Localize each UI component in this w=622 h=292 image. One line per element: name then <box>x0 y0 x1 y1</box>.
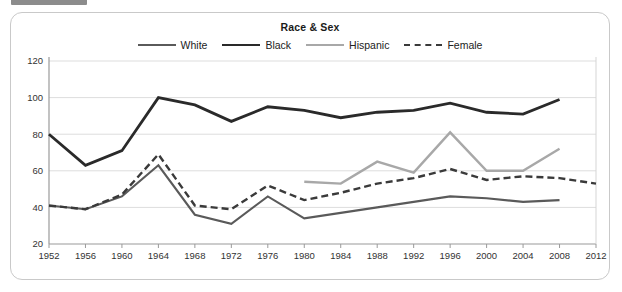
y-axis-tick-label: 100 <box>27 92 43 103</box>
x-axis-tick-label: 1972 <box>221 250 242 261</box>
y-axis-tick-label: 20 <box>32 238 43 249</box>
x-axis-tick-label: 1980 <box>294 250 315 261</box>
x-axis-tick-label: 1964 <box>148 250 169 261</box>
x-axis-tick-label: 1960 <box>111 250 132 261</box>
y-axis-tick-label: 80 <box>32 129 43 140</box>
y-axis-tick-label: 40 <box>32 202 43 213</box>
series-line-white <box>49 165 560 224</box>
y-axis-tick-label: 120 <box>27 55 43 66</box>
x-axis-tick-label: 1956 <box>75 250 96 261</box>
x-axis-tick-label: 2000 <box>476 250 497 261</box>
screenshot-root: Race & Sex WhiteBlackHispanicFemale 2040… <box>0 0 622 292</box>
chart-card: Race & Sex WhiteBlackHispanicFemale 2040… <box>10 12 610 280</box>
series-line-black <box>49 98 560 166</box>
x-axis-tick-label: 1996 <box>440 250 461 261</box>
y-axis-tick-label: 60 <box>32 165 43 176</box>
x-axis-tick-label: 2012 <box>585 250 606 261</box>
x-axis-tick-label: 1992 <box>403 250 424 261</box>
x-axis-tick-label: 1988 <box>367 250 388 261</box>
x-axis-tick-label: 1984 <box>330 250 351 261</box>
cut-off-top-bar <box>0 0 622 8</box>
x-axis-tick-label: 1952 <box>38 250 59 261</box>
top-bar-chip <box>11 0 87 5</box>
plot-area: 2040608010012019521956196019641968197219… <box>11 13 611 281</box>
x-axis-tick-label: 1976 <box>257 250 278 261</box>
x-axis-tick-label: 1968 <box>184 250 205 261</box>
line-chart-svg: 2040608010012019521956196019641968197219… <box>11 13 611 281</box>
x-axis-tick-label: 2004 <box>512 250 533 261</box>
x-axis-tick-label: 2008 <box>549 250 570 261</box>
